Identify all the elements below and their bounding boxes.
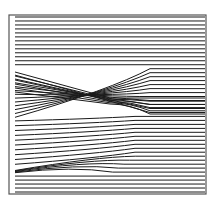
ray-plot <box>0 0 216 202</box>
ray-line <box>15 120 205 125</box>
ray-line <box>15 152 205 164</box>
ray-line <box>15 169 205 173</box>
ray-lines <box>15 17 205 192</box>
ray-line <box>15 144 205 154</box>
ray-diagram <box>0 0 216 202</box>
ray-line <box>15 124 205 130</box>
